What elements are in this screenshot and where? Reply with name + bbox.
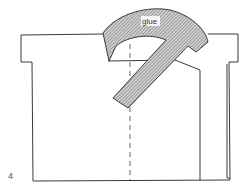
flap-diagonal-edge: [175, 60, 200, 180]
paper-base: [21, 34, 238, 181]
glue-label: glue: [142, 17, 158, 26]
paper-outline: [21, 34, 238, 181]
craft-diagram: glue: [0, 0, 248, 189]
step-number: 4: [8, 171, 13, 181]
